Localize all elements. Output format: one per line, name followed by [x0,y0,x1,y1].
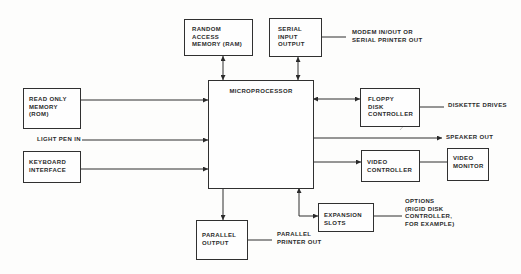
keyboard-interface-block: KEYBOARD INTERFACE [23,151,81,183]
rom-block: READ ONLY MEMORY (ROM) [23,88,81,129]
parallel-output-block: PARALLEL OUTPUT [196,220,248,260]
rom-label-line: READ ONLY [29,96,80,104]
rom-label-line: MEMORY [29,104,80,112]
keyboard-label-line: KEYBOARD [29,159,80,167]
serial-io-label-line: OUTPUT [278,41,321,49]
speaker-out-label-line: SPEAKER OUT [446,134,493,142]
parallel-output-label-line: PARALLEL [202,232,247,240]
expansion-label-line: SLOTS [324,220,373,228]
serial-out-label-line: MODEM IN/OUT OR [352,29,423,37]
floppy-label-line: DISK [368,104,419,112]
ram-label-line: MEMORY (RAM) [192,41,252,49]
floppy-label-line: CONTROLLER [368,111,419,119]
expansion-label-line: EXPANSION [324,212,373,220]
video-controller-label-line: CONTROLLER [367,167,419,175]
options-label-line: (RIGID DISK [405,206,455,214]
floppy-label-line: FLOPPY [368,96,419,104]
options-label-line: FOR EXAMPLE) [405,221,455,229]
microprocessor-block: MICROPROCESSOR [208,80,314,189]
keyboard-label-line: INTERFACE [29,167,80,175]
block-diagram: RANDOM ACCESS MEMORY (RAM) SERIAL INPUT … [0,0,521,274]
ram-block: RANDOM ACCESS MEMORY (RAM) [184,19,253,56]
video-monitor-label-line: VIDEO [453,155,488,163]
video-monitor-label-line: MONITOR [453,163,488,171]
video-controller-label-line: VIDEO [367,159,419,167]
video-controller-block: VIDEO CONTROLLER [361,150,420,182]
ram-label-line: RANDOM [192,26,252,34]
expansion-slots-block: EXPANSION SLOTS [318,203,374,232]
video-monitor-block: VIDEO MONITOR [447,148,489,181]
serial-io-label-line: SERIAL [278,26,321,34]
parallel-printer-label-line: PARALLEL [277,231,322,239]
diskette-drives-label: DISKETTE DRIVES [448,102,507,110]
serial-out-label-line: SERIAL PRINTER OUT [352,37,423,45]
options-label-line: CONTROLLER, [405,213,455,221]
microprocessor-label: MICROPROCESSOR [209,88,313,96]
light-pen-in-label: LIGHT PEN IN [37,136,81,144]
serial-out-label: MODEM IN/OUT OR SERIAL PRINTER OUT [352,29,423,44]
options-label-line: OPTIONS [405,198,455,206]
expansion-bus-arrow [299,188,318,216]
ram-label-line: ACCESS [192,34,252,42]
serial-io-block: SERIAL INPUT OUTPUT [269,18,322,57]
parallel-printer-label-line: PRINTER OUT [277,239,322,247]
parallel-printer-out-label: PARALLEL PRINTER OUT [277,231,322,246]
diskette-drives-label-line: DISKETTE DRIVES [448,102,507,110]
floppy-disk-controller-block: FLOPPY DISK CONTROLLER [360,88,420,127]
parallel-output-label-line: OUTPUT [202,240,247,248]
rom-label-line: (ROM) [29,111,80,119]
serial-io-label-line: INPUT [278,34,321,42]
options-label: OPTIONS (RIGID DISK CONTROLLER, FOR EXAM… [405,198,455,229]
speaker-out-label: SPEAKER OUT [446,134,493,142]
light-pen-label-line: LIGHT PEN IN [37,136,81,144]
